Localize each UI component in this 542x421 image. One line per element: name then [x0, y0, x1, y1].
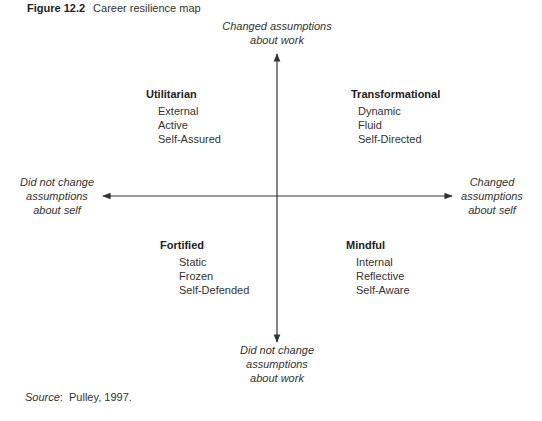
quadrant-item: External [158, 104, 221, 118]
quadrant-fortified: Fortified Static Frozen Self-Defended [160, 238, 249, 297]
axis-label-right: Changed assumptions about self [450, 175, 534, 217]
quadrant-item: Reflective [356, 269, 410, 283]
quadrant-mindful: Mindful Internal Reflective Self-Aware [346, 238, 410, 297]
axis-label-left: Did not change assumptions about self [12, 175, 102, 217]
quadrant-heading: Mindful [346, 238, 410, 252]
axis-label-top: Changed assumptions about work [207, 19, 347, 47]
quadrant-item: Fluid [358, 118, 440, 132]
quadrant-item: Active [158, 118, 221, 132]
quadrant-item: Self-Defended [179, 283, 249, 297]
quadrant-heading: Fortified [160, 238, 249, 252]
quadrant-heading: Utilitarian [146, 87, 221, 101]
source-label: Source [25, 391, 60, 403]
quadrant-transformational: Transformational Dynamic Fluid Self-Dire… [351, 87, 440, 146]
quadrant-item: Self-Directed [358, 132, 440, 146]
quadrant-item: Self-Assured [158, 132, 221, 146]
source-text: Pulley, 1997. [69, 391, 132, 403]
quadrant-heading: Transformational [351, 87, 440, 101]
axis-label-bottom: Did not change assumptions about work [207, 343, 347, 385]
quadrant-item: Static [179, 255, 249, 269]
quadrant-item: Self-Aware [356, 283, 410, 297]
quadrant-item: Internal [356, 255, 410, 269]
quadrant-item: Dynamic [358, 104, 440, 118]
quadrant-item: Frozen [179, 269, 249, 283]
source-note: Source: Pulley, 1997. [25, 391, 132, 403]
quadrant-utilitarian: Utilitarian External Active Self-Assured [146, 87, 221, 146]
